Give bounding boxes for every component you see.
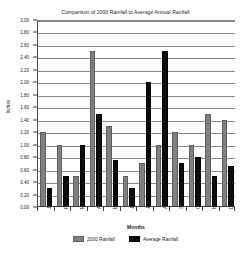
y-axis-tick-label: 0.60 — [20, 167, 29, 172]
x-axis-tick-label: Jan — [47, 202, 52, 209]
bar-oct-average — [195, 157, 200, 207]
x-axis-tick-label: Jun — [130, 202, 135, 209]
y-axis-tick-labels: 3.002.802.602.402.202.001.801.601.401.20… — [0, 20, 33, 207]
bar-aug-average — [162, 51, 167, 207]
legend-label: Average Rainfall — [143, 237, 178, 242]
x-axis-tick-mark — [186, 207, 187, 211]
y-axis-tick-label: 1.40 — [20, 117, 29, 122]
x-axis-tick-mark — [219, 207, 220, 211]
y-axis-tick-label: 1.20 — [20, 130, 29, 135]
y-axis-tick-label: 0.00 — [20, 205, 29, 210]
bar-aug-current — [156, 145, 161, 207]
legend-entry: Average Rainfall — [129, 236, 178, 242]
x-axis-tick-label: Sep — [179, 201, 184, 209]
x-axis-title: Months — [37, 224, 235, 230]
x-axis-tick-labels: JanFebMarAprMayJunJulAugSepOctNovDec — [37, 207, 235, 225]
x-axis-tick-label: Mar — [80, 201, 85, 209]
y-axis-tick-label: 1.00 — [20, 142, 29, 147]
y-axis-tick-label: 2.00 — [20, 80, 29, 85]
x-axis-tick-mark — [120, 207, 121, 211]
bar-jan-current — [40, 132, 45, 207]
x-axis-tick-label: Feb — [64, 201, 69, 209]
bar-dec-current — [222, 120, 227, 207]
y-axis-tick-label: 0.80 — [20, 155, 29, 160]
bar-jun-current — [123, 176, 128, 207]
bar-apr-average — [96, 114, 101, 208]
x-axis-tick-mark — [136, 207, 137, 211]
y-axis-tick-label: 0.20 — [20, 192, 29, 197]
x-axis-tick-mark — [234, 207, 235, 211]
bar-mar-average — [80, 145, 85, 207]
x-axis-tick-label: Nov — [212, 201, 217, 209]
x-axis-tick-mark — [103, 207, 104, 211]
bar-sep-current — [172, 132, 177, 207]
rainfall-bar-chart: Comparison of 2000 Rainfall to Average A… — [0, 0, 251, 254]
x-axis-tick-mark — [202, 207, 203, 211]
legend-swatch-icon — [73, 236, 84, 242]
x-axis-tick-mark — [169, 207, 170, 211]
chart-legend: 2000 RainfallAverage Rainfall — [0, 236, 251, 242]
y-axis-tick-label: 2.80 — [20, 30, 29, 35]
bar-may-current — [106, 126, 111, 207]
x-axis-tick-label: Jul — [146, 203, 151, 209]
y-axis-tick-label: 3.00 — [20, 18, 29, 23]
y-axis-tick-label: 1.80 — [20, 92, 29, 97]
y-axis-tick-label: 2.40 — [20, 55, 29, 60]
x-axis-tick-label: Oct — [196, 202, 201, 209]
bar-apr-current — [90, 51, 95, 207]
chart-title: Comparison of 2000 Rainfall to Average A… — [0, 9, 251, 15]
bar-nov-current — [205, 114, 210, 208]
x-axis-tick-mark — [70, 207, 71, 211]
x-axis-tick-mark — [87, 207, 88, 211]
bar-feb-current — [57, 145, 62, 207]
bar-oct-current — [189, 145, 194, 207]
plot-area — [37, 20, 235, 207]
x-axis-tick-mark — [37, 207, 38, 211]
bars-layer — [38, 21, 235, 207]
x-axis-tick-label: Dec — [229, 201, 234, 209]
x-axis-tick-label: Aug — [163, 201, 168, 209]
x-axis-tick-mark — [54, 207, 55, 211]
y-axis-tick-label: 2.20 — [20, 67, 29, 72]
x-axis-tick-label: May — [113, 200, 118, 209]
x-axis-tick-mark — [153, 207, 154, 211]
y-axis-tick-label: 2.60 — [20, 42, 29, 47]
y-axis-tick-label: 1.60 — [20, 105, 29, 110]
legend-label: 2000 Rainfall — [87, 237, 115, 242]
bar-mar-current — [73, 176, 78, 207]
bar-jul-average — [146, 82, 151, 207]
legend-swatch-icon — [129, 236, 140, 242]
bar-jul-current — [139, 163, 144, 207]
legend-entry: 2000 Rainfall — [73, 236, 115, 242]
x-axis-tick-label: Apr — [97, 202, 102, 209]
y-axis-tick-label: 0.40 — [20, 180, 29, 185]
